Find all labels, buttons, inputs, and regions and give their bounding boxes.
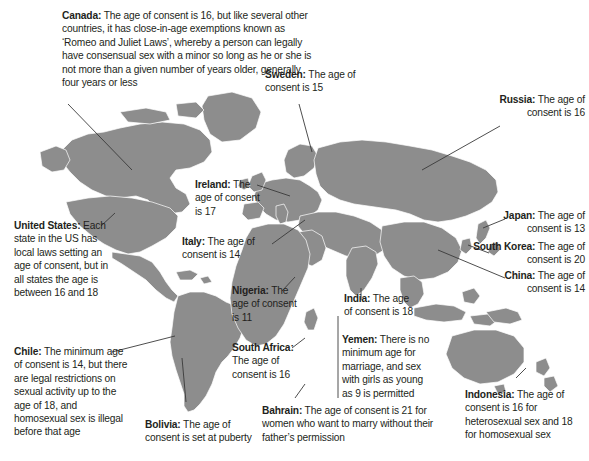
annotation-text-south-korea: The age of consent is 20 (527, 241, 585, 265)
annotation-country-canada: Canada: (62, 10, 101, 21)
annotation-country-japan: Japan: (503, 210, 535, 221)
annotation-country-sweden: Sweden: (265, 69, 306, 80)
annotation-country-united-states: United States: (14, 220, 80, 231)
annotation-country-italy: Italy: (182, 236, 205, 247)
annotation-russia: Russia: The age of consent is 16 (477, 93, 585, 120)
annotation-text-japan: The age of consent is 13 (527, 210, 585, 234)
annotation-nigeria: Nigeria: The age of consent is 11 (232, 284, 300, 324)
annotation-united-states: United States: Each state in the US has … (14, 219, 112, 299)
annotation-china: China: The age of consent is 14 (475, 269, 585, 296)
annotation-bolivia: Bolivia: The age of consent is set at pu… (145, 418, 265, 445)
annotation-country-russia: Russia: (500, 94, 536, 105)
annotation-bahrain: Bahrain: The age of consent is 21 for wo… (262, 404, 438, 444)
annotation-italy: Italy: The age of consent is 14 (182, 235, 268, 262)
annotation-india: India: The age of consent is 18 (344, 292, 416, 319)
annotation-yemen: Yemen: There is no minimum age for marri… (342, 333, 436, 400)
world-map-infographic: Canada: The age of consent is 16, but li… (0, 0, 589, 461)
annotation-south-africa: South Africa: The age of consent is 16 (232, 341, 300, 381)
annotation-chile: Chile: The minimum age of consent is 14,… (14, 345, 132, 439)
annotation-text-south-africa: The age of consent is 16 (232, 355, 290, 379)
annotation-country-yemen: Yemen: (342, 334, 377, 345)
annotation-ireland: Ireland: The age of consent is 17 (195, 178, 261, 218)
annotation-text-united-states: Each state in the US has local laws sett… (14, 220, 108, 298)
annotation-country-ireland: Ireland: (195, 179, 231, 190)
annotation-country-bahrain: Bahrain: (262, 405, 302, 416)
annotation-country-bolivia: Bolivia: (145, 419, 181, 430)
annotation-south-korea: South Korea: The age of consent is 20 (469, 240, 585, 267)
annotation-country-india: India: (344, 293, 370, 304)
annotation-text-chile: The minimum age of consent is 14, but th… (14, 346, 127, 437)
annotation-indonesia: Indonesia: The age of consent is 16 for … (465, 388, 583, 442)
annotation-text-russia: The age of consent is 16 (527, 94, 585, 118)
annotation-country-south-africa: South Africa: (232, 342, 294, 353)
annotation-text-china: The age of consent is 14 (527, 270, 585, 294)
annotation-country-chile: Chile: (14, 346, 41, 357)
annotation-sweden: Sweden: The age of consent is 15 (265, 68, 363, 95)
annotation-country-indonesia: Indonesia: (465, 389, 514, 400)
annotation-japan: Japan: The age of consent is 13 (475, 209, 585, 236)
annotation-country-china: China: (504, 270, 535, 281)
annotation-country-south-korea: South Korea: (473, 241, 535, 252)
annotation-country-nigeria: Nigeria: (232, 285, 269, 296)
